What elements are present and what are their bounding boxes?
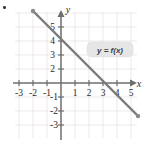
grid-lines [15, 12, 137, 138]
y-tick-label: 3 [50, 50, 55, 60]
function-label-text: y = f(x) [96, 46, 123, 55]
y-tick-labels: 5 4 3 2 -1 -2 -3 [50, 22, 58, 130]
graph-figure: -3 -2 -1 1 2 3 4 5 5 4 3 2 -1 -2 -3 x y [0, 0, 145, 150]
line-endpoint-right [136, 114, 140, 118]
y-tick-label: 4 [50, 36, 55, 46]
y-tick-label: -1 [50, 92, 58, 102]
coordinate-plane-svg: -3 -2 -1 1 2 3 4 5 5 4 3 2 -1 -2 -3 x y [0, 0, 145, 150]
line-endpoint-left [31, 9, 35, 13]
bullet-marker [3, 6, 6, 9]
x-tick-label: -2 [29, 88, 37, 98]
x-tick-label: 1 [73, 88, 78, 98]
x-tick-label: -3 [15, 88, 23, 98]
x-tick-label: 5 [129, 88, 134, 98]
x-tick-label: 3 [101, 88, 106, 98]
function-label-callout: y = f(x) [87, 42, 133, 57]
y-tick-label: 2 [50, 64, 55, 74]
x-tick-label: 2 [87, 88, 92, 98]
y-tick-label: -3 [50, 120, 58, 130]
x-axis-label: x [136, 78, 142, 89]
y-axis-arrow [58, 10, 65, 17]
y-axis-label: y [65, 4, 71, 15]
y-tick-label: -2 [50, 106, 58, 116]
